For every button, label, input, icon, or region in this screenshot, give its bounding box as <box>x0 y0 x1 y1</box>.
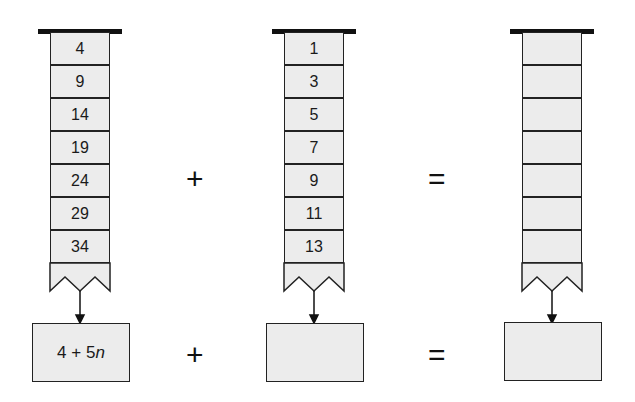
arrow-down-icon <box>310 315 318 323</box>
column-a-zigzag-tail <box>50 263 110 291</box>
formula-a-text: 4 + 5n <box>57 343 105 363</box>
formula-box-a: 4 + 5n <box>32 323 130 382</box>
plus-operator-bottom: + <box>186 340 204 370</box>
plus-operator-top: + <box>186 164 204 194</box>
arrow-down-icon <box>76 315 84 323</box>
formula-box-b <box>266 323 364 382</box>
column-sum-zigzag-tail <box>522 263 582 291</box>
formula-box-sum <box>504 322 602 381</box>
column-b-zigzag-tail <box>284 263 344 291</box>
equals-operator-bottom: = <box>428 340 446 370</box>
equals-operator-top: = <box>428 164 446 194</box>
